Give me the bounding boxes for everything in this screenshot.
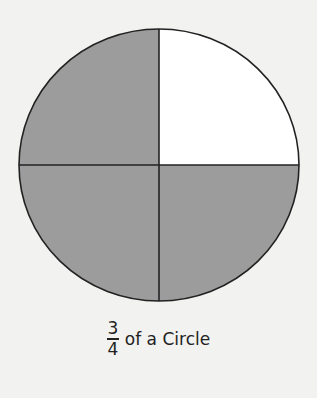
quadrant-top-left-shaded [19, 29, 159, 165]
quadrant-bottom-left-shaded [19, 165, 159, 301]
circle-fraction [19, 29, 299, 301]
denominator: 4 [107, 341, 118, 358]
fraction: 3 4 [107, 320, 119, 358]
quadrant-top-right-unshaded [159, 29, 299, 165]
numerator: 3 [107, 320, 118, 337]
caption-text: of a Circle [125, 329, 210, 349]
quadrant-bottom-right-shaded [159, 165, 299, 301]
caption: 3 4 of a Circle [0, 320, 317, 358]
